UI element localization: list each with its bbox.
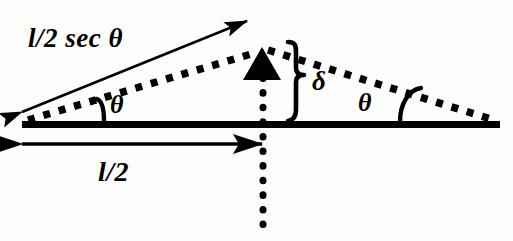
hypotenuse-label: l/2 sec θ (28, 25, 123, 52)
angle-label-right: θ (358, 90, 372, 116)
angle-label-left: θ (110, 92, 124, 118)
figure-canvas: l/2 sec θ l/2 θ θ δ (0, 0, 513, 241)
angle-arc-left (97, 99, 104, 121)
half-length-label: l/2 (98, 158, 129, 186)
dotted-segment-right (268, 50, 494, 120)
sag-label: δ (312, 68, 326, 95)
angle-arc-right (400, 88, 421, 122)
